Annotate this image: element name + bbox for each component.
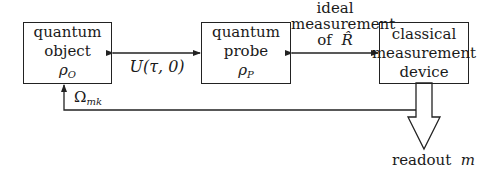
box-symbol: ρO [59,61,76,84]
readout-arrow [408,83,440,149]
label-line: ideal [291,0,379,16]
box-line: classical [392,25,456,44]
box-line: object [44,42,91,61]
label-line: of R̂ [291,32,379,48]
box-quantum-object: quantum object ρO [23,22,112,84]
box-line: quantum [34,23,102,42]
box-line: probe [224,42,268,61]
readout-label: readout m [392,152,475,169]
box-line: quantum [212,23,280,42]
edge-feedback [64,85,416,110]
box-line: device [399,63,448,82]
label-line: measurement [291,16,379,32]
box-quantum-probe: quantum probe ρP [201,22,291,84]
edge-label-feedback: Ωmk [74,89,102,110]
edge-label-unitary: U(τ, 0) [122,58,192,75]
edge-label-ideal-measurement: ideal measurement of R̂ [291,0,379,48]
box-symbol: ρP [238,61,254,84]
box-line: measurement [372,44,476,63]
